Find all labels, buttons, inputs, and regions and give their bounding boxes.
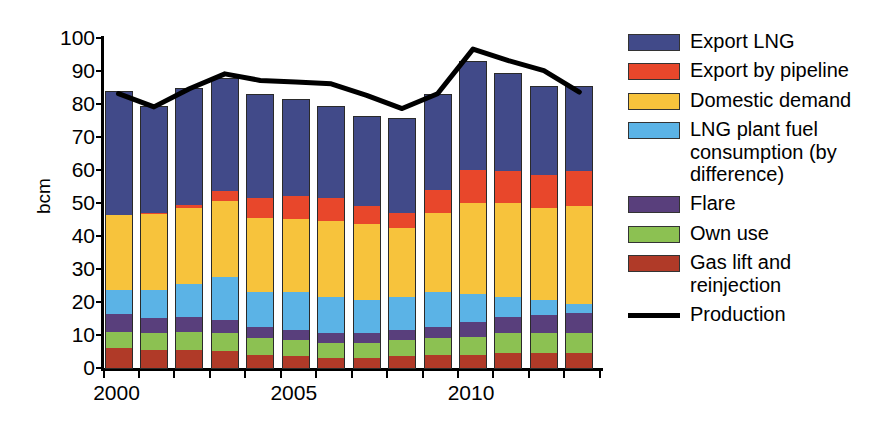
bar-segment <box>354 300 380 333</box>
legend-item[interactable]: Export by pipeline <box>628 59 892 81</box>
bar-2002[interactable] <box>176 89 202 368</box>
bar-segment <box>531 208 557 301</box>
bar-segment <box>212 351 238 368</box>
bar-2004[interactable] <box>247 95 273 368</box>
bar-segment <box>106 332 132 349</box>
bar-2000[interactable] <box>106 92 132 368</box>
legend-item[interactable]: LNG plant fuel consumption (by differenc… <box>628 118 892 185</box>
bar-segment <box>495 333 521 353</box>
bar-segment <box>106 290 132 314</box>
bar-segment <box>141 333 167 350</box>
bar-segment <box>318 198 344 221</box>
chart-legend: Export LNGExport by pipelineDomestic dem… <box>628 30 892 332</box>
bar-segment <box>425 213 451 292</box>
bar-segment <box>176 89 202 205</box>
bar-segment <box>354 343 380 358</box>
legend-item-label: Export LNG <box>690 30 794 52</box>
legend-item[interactable]: Gas lift and reinjection <box>628 251 892 296</box>
bar-segment <box>212 277 238 320</box>
bar-segment <box>176 284 202 317</box>
bar-segment <box>106 215 132 290</box>
stacked-bars <box>0 0 620 424</box>
bar-segment <box>106 92 132 215</box>
bar-segment <box>566 87 592 171</box>
bar-segment <box>176 208 202 284</box>
bar-segment <box>389 330 415 340</box>
bar-segment <box>318 221 344 297</box>
bar-2003[interactable] <box>212 79 238 368</box>
bar-segment <box>566 304 592 314</box>
bar-segment <box>389 119 415 213</box>
bar-segment <box>566 353 592 368</box>
bar-segment <box>460 294 486 322</box>
legend-item[interactable]: Flare <box>628 192 892 214</box>
bar-segment <box>212 320 238 333</box>
bar-2009[interactable] <box>425 95 451 368</box>
bar-segment <box>425 292 451 327</box>
bar-2010[interactable] <box>460 62 486 368</box>
bar-segment <box>495 353 521 368</box>
bar-segment <box>283 219 309 292</box>
bar-2013[interactable] <box>566 87 592 368</box>
bar-2008[interactable] <box>389 119 415 368</box>
bar-segment <box>318 297 344 333</box>
bar-2007[interactable] <box>354 117 380 368</box>
bar-segment <box>531 315 557 333</box>
bar-segment <box>283 330 309 340</box>
bar-segment <box>247 355 273 368</box>
bar-2005[interactable] <box>283 100 309 368</box>
bar-segment <box>141 107 167 213</box>
bar-segment <box>141 318 167 333</box>
bar-segment <box>212 333 238 351</box>
bar-segment <box>425 355 451 368</box>
legend-item-label: Own use <box>690 222 769 244</box>
bar-segment <box>141 214 167 290</box>
bar-segment <box>531 175 557 208</box>
bar-segment <box>212 201 238 277</box>
bar-segment <box>531 300 557 315</box>
bar-segment <box>460 203 486 294</box>
legend-color-swatch <box>628 34 680 51</box>
bar-segment <box>354 117 380 206</box>
bar-segment <box>283 292 309 330</box>
bar-segment <box>566 333 592 353</box>
bar-segment <box>566 171 592 206</box>
bar-segment <box>176 332 202 350</box>
legend-item[interactable]: Own use <box>628 222 892 244</box>
bar-segment <box>389 356 415 368</box>
legend-item[interactable]: Domestic demand <box>628 89 892 111</box>
bar-segment <box>141 350 167 368</box>
legend-color-swatch <box>628 122 680 139</box>
bar-segment <box>531 333 557 353</box>
legend-item-label: Domestic demand <box>690 89 851 111</box>
bar-2006[interactable] <box>318 107 344 368</box>
bar-segment <box>283 196 309 219</box>
bar-segment <box>283 340 309 357</box>
bar-segment <box>460 170 486 203</box>
plot-area: bcm 0102030405060708090100200020052010 <box>0 0 620 424</box>
bar-segment <box>176 317 202 332</box>
bar-2012[interactable] <box>531 87 557 368</box>
legend-item-label: LNG plant fuel consumption (by differenc… <box>690 118 837 185</box>
bar-segment <box>318 358 344 368</box>
legend-item-label: Export by pipeline <box>690 59 849 81</box>
bar-segment <box>425 327 451 339</box>
bar-segment <box>460 355 486 368</box>
legend-item-label: Gas lift and reinjection <box>690 251 791 296</box>
bar-segment <box>106 348 132 368</box>
chart-figure: bcm 0102030405060708090100200020052010 E… <box>0 0 892 424</box>
bar-segment <box>141 290 167 318</box>
bar-segment <box>495 297 521 317</box>
legend-color-swatch <box>628 255 680 272</box>
bar-segment <box>460 322 486 337</box>
bar-2001[interactable] <box>141 107 167 368</box>
bar-segment <box>389 228 415 297</box>
bar-segment <box>495 74 521 171</box>
bar-segment <box>460 337 486 355</box>
bar-2011[interactable] <box>495 74 521 368</box>
legend-item[interactable]: Production <box>628 303 892 325</box>
bar-segment <box>283 100 309 196</box>
bar-segment <box>176 350 202 368</box>
legend-item[interactable]: Export LNG <box>628 30 892 52</box>
bar-segment <box>425 190 451 213</box>
